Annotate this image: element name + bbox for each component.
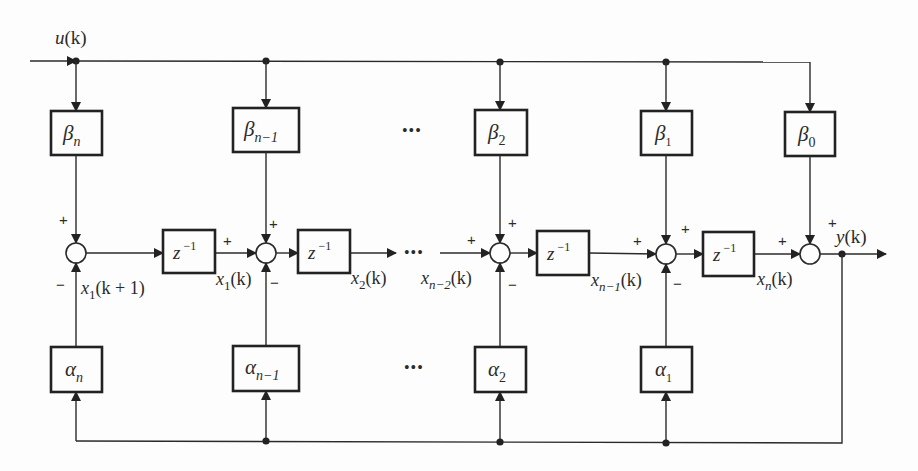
- delay-block-1: z−1: [163, 230, 215, 273]
- svg-text:+: +: [633, 232, 642, 249]
- state-label-xn-minus-1-k: xn−1(k): [590, 270, 642, 294]
- svg-text:+: +: [59, 211, 68, 228]
- ellipsis-middle: •••: [404, 244, 424, 261]
- svg-text:+: +: [269, 215, 278, 232]
- alpha-block-2: α2: [475, 347, 526, 392]
- ellipsis-bottom: •••: [404, 359, 424, 376]
- svg-text:−: −: [270, 274, 279, 291]
- state-label-x1-k: x1(k): [215, 269, 252, 293]
- state-label-xn-minus-2-k: xn−2(k): [420, 268, 472, 292]
- junction-node: [662, 439, 669, 446]
- alpha-block-n: αn: [51, 347, 102, 392]
- delay-block-4: z−1: [703, 232, 754, 276]
- wire-delay-to-sum-1: [589, 253, 656, 254]
- beta-block-n: βn: [51, 111, 102, 155]
- svg-text:+: +: [778, 232, 787, 249]
- svg-text:+: +: [223, 232, 232, 249]
- svg-text:+: +: [681, 220, 690, 237]
- svg-text:+: +: [467, 231, 476, 248]
- svg-text:+: +: [508, 214, 517, 231]
- delay-block-3: z−1: [537, 231, 589, 275]
- summing-junction-0: [800, 244, 820, 264]
- alpha-block-1: α1: [641, 347, 692, 392]
- summing-junction-n-minus-1: [256, 243, 276, 263]
- ellipsis-top: •••: [402, 122, 422, 139]
- summing-junction-1: [656, 244, 676, 264]
- input-bus-wire: [76, 61, 810, 62]
- summing-junction-n: [66, 243, 86, 263]
- beta-block-n-minus-1: βn−1: [233, 108, 299, 152]
- summing-junction-2: [490, 243, 510, 263]
- beta-block-2: β2: [475, 110, 527, 155]
- svg-text:−: −: [508, 276, 517, 293]
- svg-text:−: −: [56, 276, 65, 293]
- state-label-x2-k: x2(k): [350, 268, 387, 292]
- delay-block-2: z−1: [298, 230, 350, 273]
- svg-text:−: −: [673, 275, 682, 292]
- junction-node: [496, 438, 503, 445]
- input-label: u(k): [55, 27, 87, 49]
- state-label-xn-k: xn(k): [756, 269, 793, 293]
- beta-block-1: β1: [641, 111, 692, 155]
- input-bus: [30, 57, 810, 112]
- state-label-x1-k-plus-1: x1(k + 1): [80, 278, 145, 302]
- junction-node: [262, 437, 269, 444]
- beta-block-0: β0: [785, 112, 835, 156]
- alpha-block-n-minus-1: αn−1: [233, 346, 299, 391]
- output-label: y(k): [834, 226, 867, 248]
- block-diagram: u(k) βn βn−1 β2 β1 β0 ••• •••: [0, 0, 918, 471]
